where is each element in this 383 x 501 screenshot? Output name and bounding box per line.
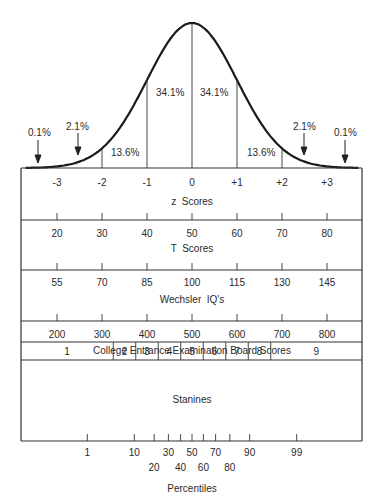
- stanine-cell: 7: [234, 346, 240, 357]
- percentile-label: 90: [244, 447, 256, 458]
- stanine-cell: 3: [144, 346, 150, 357]
- percentile-label: 40: [175, 462, 187, 473]
- percentile-label: 50: [186, 447, 198, 458]
- stanines-title: Stanines: [173, 394, 212, 405]
- stanine-cell: 8: [257, 346, 263, 357]
- percentile-label: 1: [85, 447, 91, 458]
- percentiles-title: Percentiles: [167, 483, 216, 494]
- percentiles-row: 1 10 30 50 70 90 99 20 40 60 80 Percenti…: [85, 447, 303, 494]
- stanine-cell: 2: [122, 346, 128, 357]
- percentile-label: 99: [291, 447, 303, 458]
- percentile-label: 20: [149, 462, 161, 473]
- stanine-cell: 4: [167, 346, 173, 357]
- percentile-label: 10: [129, 447, 141, 458]
- stanine-cell: 6: [212, 346, 218, 357]
- percentile-label: 80: [224, 462, 236, 473]
- percentile-label: 30: [163, 447, 175, 458]
- percentile-label: 70: [210, 447, 222, 458]
- stanine-cell: 5: [189, 346, 195, 357]
- stanines-row: 1 2 3 4 5 6 7 8 9 Stanines: [64, 346, 319, 405]
- stanine-cell: 9: [314, 346, 320, 357]
- stanine-cell: 1: [64, 346, 70, 357]
- percentile-label: 60: [198, 462, 210, 473]
- stanine-percentile-layer: 1 2 3 4 5 6 7 8 9 Stanines 1 10 30 50 70…: [0, 0, 383, 501]
